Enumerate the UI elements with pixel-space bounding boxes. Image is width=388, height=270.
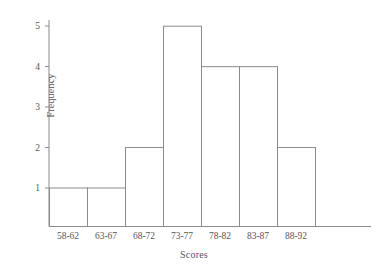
histogram-bar (278, 148, 316, 227)
plot-area (0, 0, 388, 270)
histogram-bar (240, 67, 278, 227)
y-tick-label-1: 1 (24, 183, 40, 193)
x-tick-label-63-67: 63-67 (87, 231, 125, 242)
x-tick-label-68-72: 68-72 (125, 231, 163, 242)
x-tick-label-83-87: 83-87 (239, 231, 277, 242)
x-tick-label-88-92: 88-92 (277, 231, 315, 242)
histogram-chart: 1 2 3 4 5 58-62 63-67 68-72 73-77 78-82 … (0, 0, 388, 270)
histogram-bar (88, 188, 126, 227)
y-tick-label-3: 3 (24, 102, 40, 112)
histogram-bar (126, 148, 164, 227)
histogram-bar (202, 67, 240, 227)
x-tick-label-58-62: 58-62 (49, 231, 87, 242)
histogram-bar (164, 26, 202, 226)
y-axis-title: Frequency (45, 56, 56, 136)
x-tick-label-78-82: 78-82 (201, 231, 239, 242)
y-tick-label-4: 4 (24, 62, 40, 72)
bars-group (50, 26, 316, 226)
x-tick-label-73-77: 73-77 (163, 231, 201, 242)
histogram-bar (50, 188, 88, 227)
y-tick-label-2: 2 (24, 143, 40, 153)
y-tick-label-5: 5 (24, 21, 40, 31)
x-axis-title: Scores (0, 249, 388, 260)
